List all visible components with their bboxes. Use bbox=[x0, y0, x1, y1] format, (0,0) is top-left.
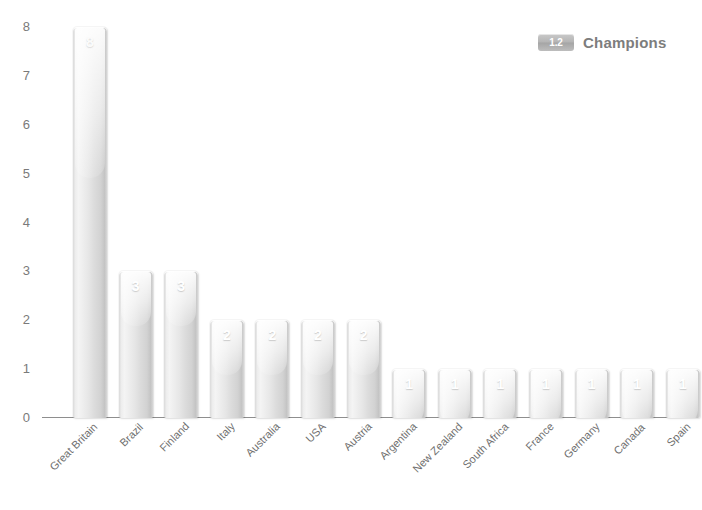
bar-value-label: 2 bbox=[210, 328, 244, 342]
bar[interactable]: 1 bbox=[529, 369, 563, 418]
bar-group: 3 bbox=[119, 27, 153, 418]
bar[interactable]: 2 bbox=[255, 320, 289, 418]
bar-group: 2 bbox=[210, 27, 244, 418]
bar-value-label: 1 bbox=[575, 377, 609, 391]
bar-group: 2 bbox=[301, 27, 335, 418]
x-axis-tick-label: Finland bbox=[158, 421, 191, 454]
x-axis-tick-label: Argentina bbox=[378, 421, 419, 462]
bar-value-label: 1 bbox=[666, 377, 700, 391]
bar-value-label: 1 bbox=[438, 377, 472, 391]
plot-area: 83322221111111 bbox=[42, 26, 690, 418]
bar-chart: 1.2 Champions 012345678 83322221111111 G… bbox=[0, 0, 702, 510]
y-axis-tick-label: 8 bbox=[0, 20, 30, 33]
bar[interactable]: 1 bbox=[620, 369, 654, 418]
y-axis-tick-label: 0 bbox=[0, 411, 30, 424]
bar[interactable]: 2 bbox=[301, 320, 335, 418]
bar[interactable]: 1 bbox=[483, 369, 517, 418]
x-axis-tick-label: USA bbox=[304, 421, 328, 445]
x-axis-tick-label: New Zealand bbox=[411, 421, 465, 475]
bar-value-label: 2 bbox=[347, 328, 381, 342]
y-axis-tick-label: 1 bbox=[0, 362, 30, 375]
y-axis-tick-label: 3 bbox=[0, 264, 30, 277]
y-axis-tick-label: 6 bbox=[0, 117, 30, 130]
bar-value-label: 2 bbox=[255, 328, 289, 342]
y-axis-tick-label: 4 bbox=[0, 215, 30, 228]
bar-group: 1 bbox=[483, 27, 517, 418]
x-axis-tick-label: Canada bbox=[612, 421, 647, 456]
bar-group: 8 bbox=[73, 27, 107, 418]
bar-value-label: 1 bbox=[620, 377, 654, 391]
bar-value-label: 1 bbox=[392, 377, 426, 391]
bar[interactable]: 3 bbox=[164, 271, 198, 418]
y-axis-tick-label: 2 bbox=[0, 313, 30, 326]
bar[interactable]: 2 bbox=[210, 320, 244, 418]
x-axis-tick-label: Brazil bbox=[118, 421, 145, 448]
bar-group: 3 bbox=[164, 27, 198, 418]
y-axis-tick-label: 5 bbox=[0, 166, 30, 179]
bar[interactable]: 1 bbox=[392, 369, 426, 418]
bar[interactable]: 2 bbox=[347, 320, 381, 418]
x-axis-tick-label: Germany bbox=[562, 421, 602, 461]
x-axis-tick-label: Italy bbox=[215, 421, 237, 443]
bar-group: 2 bbox=[255, 27, 289, 418]
bar[interactable]: 3 bbox=[119, 271, 153, 418]
bar[interactable]: 1 bbox=[575, 369, 609, 418]
bar-group: 1 bbox=[666, 27, 700, 418]
bar-value-label: 1 bbox=[529, 377, 563, 391]
bar-group: 1 bbox=[438, 27, 472, 418]
bar-group: 1 bbox=[620, 27, 654, 418]
y-axis-tick-label: 7 bbox=[0, 68, 30, 81]
x-axis-tick-label: France bbox=[524, 421, 556, 453]
bar[interactable]: 8 bbox=[73, 27, 107, 418]
bar-group: 2 bbox=[347, 27, 381, 418]
bar-value-label: 3 bbox=[119, 279, 153, 293]
bar-group: 1 bbox=[575, 27, 609, 418]
bar-value-label: 2 bbox=[301, 328, 335, 342]
bar-value-label: 3 bbox=[164, 279, 198, 293]
x-axis-tick-label: Great Britain bbox=[48, 421, 99, 472]
bar[interactable]: 1 bbox=[438, 369, 472, 418]
x-axis-tick-label: Spain bbox=[665, 421, 693, 449]
bar[interactable]: 1 bbox=[666, 369, 700, 418]
x-axis-tick-label: South Africa bbox=[461, 421, 511, 471]
x-axis-tick-label: Australia bbox=[244, 421, 282, 459]
bar-group: 1 bbox=[529, 27, 563, 418]
bar-value-label: 8 bbox=[73, 35, 107, 49]
bar-group: 1 bbox=[392, 27, 426, 418]
x-axis-tick-label: Austria bbox=[342, 421, 374, 453]
bar-value-label: 1 bbox=[483, 377, 517, 391]
